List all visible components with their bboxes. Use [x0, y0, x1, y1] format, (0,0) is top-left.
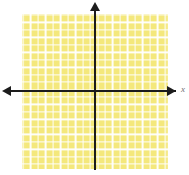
x-axis-label: x [181, 84, 185, 94]
x-axis-arrow-left-icon [2, 86, 11, 96]
y-axis-arrow-up-icon [90, 2, 100, 11]
coordinate-plane-figure: x [0, 0, 189, 175]
y-axis-line [94, 9, 96, 170]
x-axis-arrow-right-icon [167, 86, 176, 96]
x-axis-line [9, 90, 176, 92]
